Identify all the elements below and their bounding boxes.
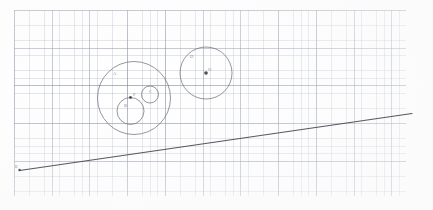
- shared-tangency-point-label: P: [133, 93, 136, 98]
- right-circle-label: D: [190, 55, 193, 60]
- graph-paper-sheet: ABCDPOE: [0, 0, 433, 210]
- right-circle-center-point-label: O: [208, 68, 211, 73]
- line-left-endpoint-mark: [18, 169, 20, 171]
- points-group: [18, 71, 208, 171]
- outer-large-circle-label: A: [113, 72, 116, 77]
- shared-tangency-point: [129, 96, 132, 99]
- lines-group: [20, 114, 413, 171]
- line-left-endpoint-mark-label: E: [15, 165, 18, 170]
- tangent-line: [20, 114, 413, 171]
- hand-drawn-figure: [0, 0, 433, 210]
- inner-small-circle-label: C: [149, 90, 152, 95]
- inner-lower-circle-label: B: [124, 104, 127, 109]
- circles-group: [98, 47, 233, 135]
- inner-lower-circle: [117, 98, 144, 125]
